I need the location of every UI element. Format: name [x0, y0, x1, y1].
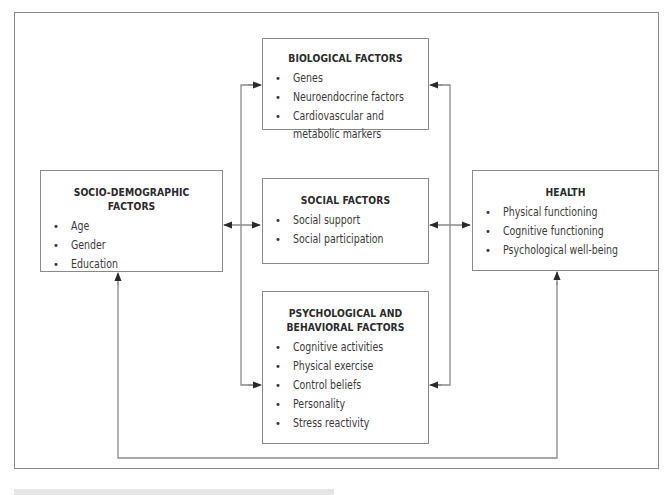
left-bracket-connector — [241, 85, 261, 385]
right-bracket-connector — [430, 85, 450, 385]
figure-caption-cropped — [14, 487, 344, 495]
socio-to-health-loop-connector — [118, 272, 557, 458]
connector-arrows — [0, 0, 670, 495]
